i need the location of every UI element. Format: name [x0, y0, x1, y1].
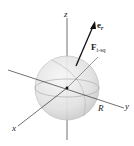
arrowhead-icon [90, 21, 96, 29]
radius-label: R [98, 104, 104, 113]
z-axis-label: z [64, 10, 68, 19]
unit-vector-label: er [97, 21, 103, 31]
y-axis-label: y [125, 102, 129, 111]
origin-dot [66, 87, 69, 90]
x-axis-label: x [12, 124, 16, 133]
force-label: Fi-sq [91, 43, 106, 53]
sphere-diagram [0, 0, 134, 146]
